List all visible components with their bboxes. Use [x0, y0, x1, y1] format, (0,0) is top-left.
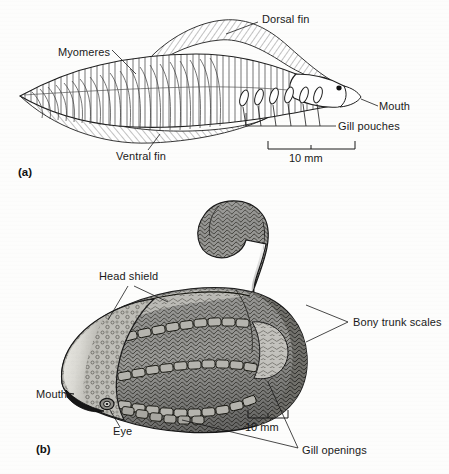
- scale-bar-a-caption: 10 mm: [289, 152, 323, 164]
- label-mouth-a: Mouth: [379, 100, 410, 112]
- label-bony-trunk-scales: Bony trunk scales: [353, 316, 442, 328]
- label-eye: Eye: [113, 425, 132, 437]
- panel-b-id: (b): [36, 443, 51, 455]
- eye-marker: [100, 398, 114, 409]
- label-gill-openings: Gill openings: [302, 444, 367, 456]
- label-myomeres: Myomeres: [58, 46, 110, 58]
- label-dorsal-fin: Dorsal fin: [262, 13, 309, 25]
- label-mouth-b: Mouth: [36, 388, 67, 400]
- label-ventral-fin: Ventral fin: [116, 150, 166, 162]
- scale-bar-b-caption: 10 mm: [245, 421, 279, 433]
- panel-a-id: (a): [18, 166, 32, 178]
- label-head-shield: Head shield: [99, 270, 158, 282]
- eye-marker: [336, 86, 341, 91]
- label-gill-pouches: Gill pouches: [338, 120, 400, 132]
- figure-canvas: [0, 0, 449, 474]
